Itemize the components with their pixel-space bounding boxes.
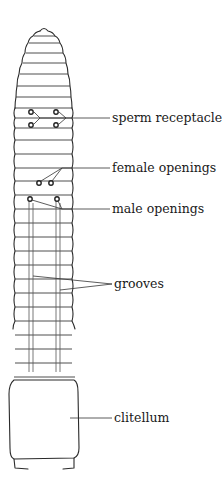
label-clitellum: clitellum [114,410,169,425]
label-male-openings: male openings [112,201,204,216]
clitellum-shape [9,380,79,469]
male-opening-pores [28,197,110,209]
worm-body [13,108,75,377]
worm-head [15,29,72,109]
label-sperm-receptacles: sperm receptacles [112,110,222,125]
earthworm-diagram: sperm receptacles female openings male o… [0,0,222,494]
label-female-openings: female openings [112,160,216,175]
grooves-lines [29,200,60,372]
sperm-receptacle-pores [29,110,110,127]
label-grooves: grooves [114,276,164,291]
